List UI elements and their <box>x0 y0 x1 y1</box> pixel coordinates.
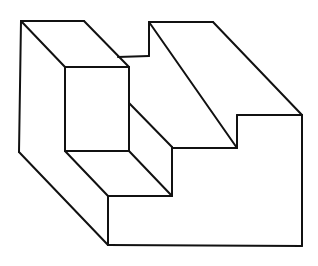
edge-line <box>108 245 302 246</box>
edge-line <box>65 151 108 196</box>
edge-line <box>84 21 129 67</box>
edge-line <box>149 22 237 148</box>
edge-line <box>19 21 21 152</box>
edge-line <box>21 21 65 67</box>
edge-line <box>213 22 302 115</box>
edge-line <box>118 56 149 57</box>
edge-line <box>129 151 172 196</box>
line-segments <box>19 21 302 246</box>
edge-line <box>19 152 108 245</box>
edge-line <box>129 103 172 147</box>
staircase-drawing <box>0 0 318 266</box>
